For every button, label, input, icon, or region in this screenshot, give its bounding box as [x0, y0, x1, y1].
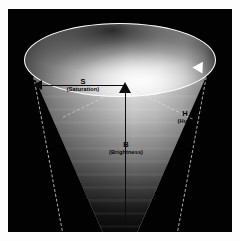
brightness-arrow-icon: [119, 82, 131, 93]
brightness-symbol: B: [108, 141, 144, 149]
saturation-arrow-icon: [33, 80, 42, 90]
hsb-cone-figure: S (Saturation) B (Brightness) H (Hue): [0, 0, 240, 241]
hue-label: H (Hue): [170, 110, 200, 125]
brightness-label: B (Brightness): [108, 141, 144, 156]
saturation-label: S (Saturation): [65, 78, 101, 93]
brightness-name: (Brightness): [108, 150, 144, 156]
hue-name: (Hue): [170, 119, 200, 125]
brightness-axis-line: [125, 92, 126, 222]
diagram-canvas: S (Saturation) B (Brightness) H (Hue): [8, 9, 232, 232]
saturation-symbol: S: [65, 78, 101, 86]
saturation-name: (Saturation): [65, 87, 101, 93]
hue-symbol: H: [170, 110, 200, 118]
